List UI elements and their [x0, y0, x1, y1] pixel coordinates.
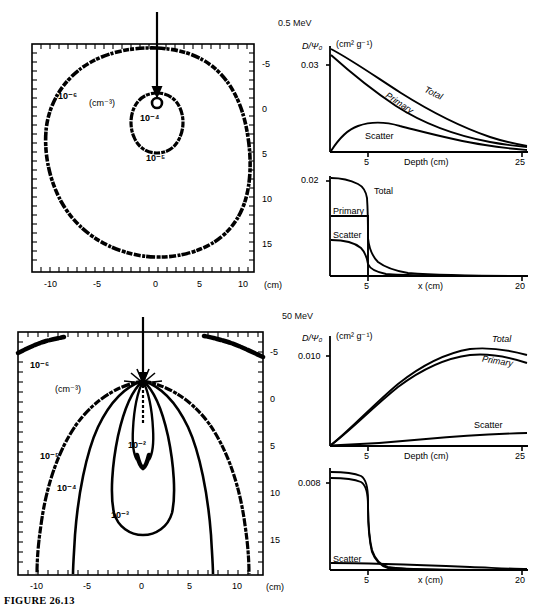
curve-primary-top-profile	[331, 216, 368, 276]
y-tick-bottom-5: 5	[270, 441, 275, 451]
contour-map-50mev: 10⁻⁶ 10⁻⁵ 10⁻⁴ 10⁻³ 10⁻² (cm⁻³) -5 0 5 1…	[0, 305, 300, 613]
y-axis-units-bottom-chart: (cm² g⁻¹)	[336, 331, 373, 341]
depth-dose-chart-50mev: D/Ψ₀ (cm² g⁻¹) 0.010 Total Primary Scatt…	[300, 330, 533, 460]
contour-1e-4-right	[143, 381, 213, 574]
contour-units-top: (cm⁻³)	[89, 98, 115, 108]
x-axis-label-top-chart: Depth (cm)	[404, 157, 449, 167]
curve-label-total-bottom: Total	[492, 334, 511, 344]
y-tick-bottom--5: -5	[270, 347, 278, 357]
y-tick-bottom-10: 10	[270, 488, 280, 498]
y-tick-bottom-0: 0	[270, 394, 275, 404]
profile-chart-0p5mev: 0.02 Total Primary Scatter 5 x (cm) 20	[300, 172, 533, 294]
contour-label-1e-3-bottom: 10⁻³	[111, 510, 129, 520]
x-tick-bottom-10: 10	[232, 581, 242, 591]
y-axis-units-top-chart: (cm² g⁻¹)	[336, 39, 373, 49]
x-tick-top--5: -5	[93, 279, 101, 289]
y-axis-label-top-chart: D/Ψ₀	[302, 41, 322, 51]
x-tick-bottom-5: 5	[187, 581, 192, 591]
x-tick-bottom--5: -5	[83, 581, 91, 591]
contour-1e-2-bottom	[137, 455, 149, 468]
y-axis-label-bottom-chart: D/Ψ₀	[302, 333, 322, 343]
beam-arrow-icon	[152, 12, 163, 99]
contour-1e-6-bottom-right	[204, 336, 263, 357]
curve-label-scatter-bottom: Scatter	[474, 420, 503, 430]
y-tick-top-15: 15	[262, 239, 272, 249]
curve-label-scatter-top: Scatter	[365, 131, 394, 141]
x-tick-bottom-0: 0	[139, 581, 144, 591]
x-axis-label-top-profile: x (cm)	[418, 281, 443, 291]
x-tick-20-bottom-profile: 20	[515, 575, 525, 585]
contour-1e-5-right	[143, 381, 249, 574]
x-tick-5-bottom-profile: 5	[364, 575, 369, 585]
depth-dose-chart-0p5mev: D/Ψ₀ (cm² g⁻¹) 0.03 Total Primary Scatte…	[300, 36, 533, 166]
contour-label-1e-5-bottom: 10⁻⁵	[40, 451, 59, 461]
x-axis-unit-bottom: (cm)	[266, 582, 284, 592]
depth-dose-svg-bottom	[300, 330, 533, 460]
contour-label-1e-4-top: 10⁻⁴	[140, 113, 159, 123]
y-tick-top-0: 0	[262, 104, 267, 114]
contour-1e-6-bottom-left	[18, 337, 64, 353]
x-tick-5-bottom-chart: 5	[364, 451, 369, 461]
contour-label-1e-6-top: 10⁻⁶	[58, 91, 77, 101]
x-tick-top-5: 5	[197, 279, 202, 289]
curve-scatter-top	[331, 123, 527, 151]
contour-label-1e-5-top: 10⁻⁵	[146, 153, 165, 163]
x-tick-5-top-chart: 5	[364, 157, 369, 167]
x-axis-unit-top: (cm)	[264, 280, 282, 290]
profile-chart-50mev: 0.008 Scatter 5 x (cm) 20	[300, 462, 533, 587]
x-tick-20-top-profile: 20	[515, 281, 525, 291]
profile-svg-bottom	[300, 462, 533, 587]
contour-units-bottom: (cm⁻³)	[55, 384, 81, 394]
x-tick-5-top-profile: 5	[364, 281, 369, 291]
x-tick-top-10: 10	[238, 279, 248, 289]
curve-label-primary-top-profile: Primary	[333, 206, 364, 216]
contour-1e-5-left	[37, 381, 143, 574]
y-tick-0p03: 0.03	[301, 60, 319, 70]
x-axis-label-bottom-profile: x (cm)	[418, 575, 443, 585]
x-tick-top-0: 0	[153, 279, 158, 289]
contour-label-1e-2-bottom: 10⁻²	[128, 440, 146, 450]
contour-1e-5-top	[131, 93, 183, 153]
y-tick-0p02: 0.02	[301, 175, 319, 185]
y-tick-top-10: 10	[262, 194, 272, 204]
x-tick-25-top-chart: 25	[515, 157, 525, 167]
contour-1e-4-left	[73, 381, 143, 574]
depth-dose-svg-top	[300, 36, 533, 166]
y-tick-top-5: 5	[262, 149, 267, 159]
figure-caption: FIGURE 26.13	[4, 595, 75, 606]
x-tick-25-bottom-chart: 25	[515, 451, 525, 461]
contour-label-1e-4-bottom: 10⁻⁴	[57, 483, 76, 493]
contour-map-0p5mev: 10⁻⁶ 10⁻⁴ 10⁻⁵ (cm⁻³) -5 0 5 10 15 -10 -…	[0, 0, 300, 305]
curve-primary-bottom	[331, 354, 527, 445]
curve-label-scatter-bottom-profile: Scatter	[333, 554, 362, 564]
y-tick-0p010: 0.010	[298, 351, 321, 361]
curve-total-top-profile	[331, 178, 527, 276]
curve-scatter-bottom	[331, 433, 527, 446]
x-axis-label-bottom-chart: Depth (cm)	[404, 451, 449, 461]
curve-label-total-top-profile: Total	[374, 186, 393, 196]
y-tick-top--5: -5	[262, 59, 270, 69]
y-tick-0p008: 0.008	[298, 478, 321, 488]
x-tick-bottom--10: -10	[30, 581, 43, 591]
curve-total-top	[331, 49, 527, 146]
curve-label-scatter-top-profile: Scatter	[333, 230, 362, 240]
curve-scatter-top-profile	[331, 240, 527, 276]
y-tick-bottom-15: 15	[270, 535, 280, 545]
x-tick-top--10: -10	[44, 279, 57, 289]
contour-1e-4-top	[152, 98, 162, 108]
contour-label-1e-6-bottom: 10⁻⁶	[30, 360, 49, 370]
